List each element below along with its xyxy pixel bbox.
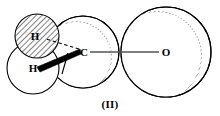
molecule-diagram-canvas: H H C O (II) bbox=[0, 0, 220, 116]
oxygen-rim-inner-cut bbox=[113, 12, 201, 100]
molecule-figure: H H C O (II) bbox=[0, 0, 220, 116]
label-oxygen: O bbox=[162, 46, 171, 58]
label-hydrogen-lower: H bbox=[29, 62, 38, 74]
figure-caption: (II) bbox=[101, 98, 118, 111]
label-hydrogen-upper: H bbox=[31, 30, 40, 42]
oxygen-rim-shading bbox=[112, 11, 202, 101]
label-carbon: C bbox=[80, 46, 88, 58]
